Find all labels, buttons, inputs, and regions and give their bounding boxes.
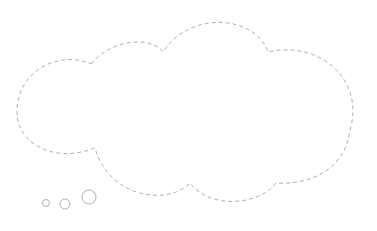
trail-circle-medium <box>60 199 70 209</box>
cloud-outline <box>17 22 353 201</box>
thought-bubble-diagram <box>0 0 377 231</box>
trail-circle-small <box>43 200 50 207</box>
trail-circle-large <box>82 190 96 204</box>
